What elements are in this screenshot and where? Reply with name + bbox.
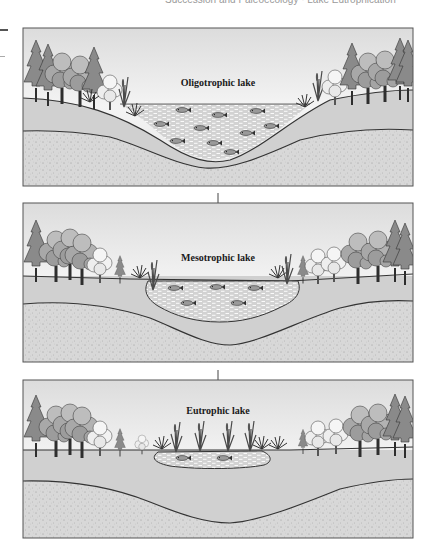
label-mesotrophic: Mesotrophic lake bbox=[181, 252, 256, 263]
panel-eutrophic: Eutrophic lake bbox=[23, 380, 417, 538]
panel-oligotrophic: Oligotrophic lake bbox=[23, 28, 420, 186]
panel-mesotrophic: Mesotrophic lake bbox=[23, 203, 417, 362]
label-eutrophic: Eutrophic lake bbox=[186, 405, 250, 416]
lake-succession-diagram: Oligotrophic lake bbox=[0, 0, 438, 543]
label-oligotrophic: Oligotrophic lake bbox=[181, 77, 256, 88]
